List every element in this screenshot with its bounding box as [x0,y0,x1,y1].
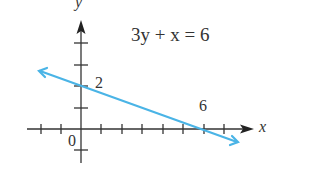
x-axis-label: x [259,118,266,136]
y-axis [74,30,88,163]
y-axis-label: y [75,0,82,11]
origin-label: 0 [68,132,76,150]
y-intercept-label: 2 [95,74,103,92]
equation-label: 3y + x = 6 [131,24,209,46]
x-intercept-label: 6 [199,97,207,115]
